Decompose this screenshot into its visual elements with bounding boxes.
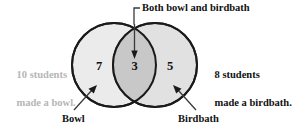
venn-diagram-figure: 7 3 5 Both bowl and birdbath 10 students… xyxy=(0,0,302,130)
bowl-annotation-line-2: made a bowl. xyxy=(17,97,76,108)
bowl-annotation-line-1: 10 students xyxy=(17,69,67,80)
birdbath-annotation-line-2: made a birdbath. xyxy=(215,97,292,108)
bowl-set-label: Bowl xyxy=(62,112,85,126)
birdbath-set-label: Birdbath xyxy=(178,112,219,126)
count-both: 3 xyxy=(131,59,137,73)
birdbath-annotation-line-1: 8 students xyxy=(215,69,260,80)
count-birdbath-only: 5 xyxy=(167,59,173,73)
both-callout-label: Both bowl and birdbath xyxy=(142,1,250,15)
count-bowl-only: 7 xyxy=(96,59,102,73)
